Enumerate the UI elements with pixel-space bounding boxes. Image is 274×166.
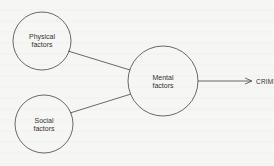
edge-physical-to-mental <box>68 51 130 70</box>
physical-label-line2: factors <box>29 41 55 49</box>
physical-factors-label: Physical factors <box>29 33 55 49</box>
physical-label-line1: Physical <box>29 33 55 41</box>
mental-label-line1: Mental <box>152 74 173 82</box>
mental-label-line2: factors <box>152 82 173 90</box>
mental-factors-label: Mental factors <box>152 74 173 90</box>
diagram-canvas <box>0 0 274 166</box>
edge-social-to-mental <box>70 94 131 113</box>
crime-outcome-label: CRIME <box>256 78 274 85</box>
social-label-line1: Social <box>33 117 54 125</box>
social-factors-label: Social factors <box>33 117 54 133</box>
social-label-line2: factors <box>33 125 54 133</box>
